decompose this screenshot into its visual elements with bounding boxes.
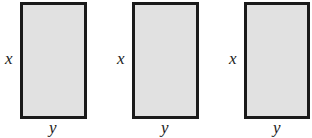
- rectangle-panel-3: x y: [0, 0, 312, 138]
- side-label-x-3: x: [229, 50, 237, 67]
- rectangle-3: [244, 2, 310, 119]
- bottom-label-y-3: y: [273, 119, 281, 136]
